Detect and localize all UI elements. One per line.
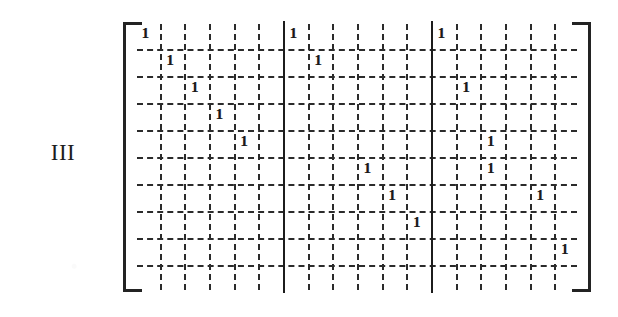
grid-vline	[480, 24, 482, 290]
grid-vline	[554, 24, 556, 290]
matrix-entry-r6-c10: 1	[364, 160, 372, 175]
grid-vline	[234, 24, 236, 290]
matrix-entry-r2-c2: 1	[166, 52, 174, 67]
matrix-entry-r2-c8: 1	[314, 52, 322, 67]
grid-vline	[505, 24, 507, 290]
grid-vline	[209, 24, 211, 290]
matrix-entry-r7-c17: 1	[536, 187, 544, 202]
matrix-figure: 1111111111111111	[123, 22, 591, 292]
matrix-entry-r3-c14: 1	[462, 79, 470, 94]
matrix-entry-r8-c12: 1	[413, 214, 421, 229]
grid-vline	[382, 24, 384, 290]
matrix-entry-r5-c5: 1	[240, 133, 248, 148]
matrix-right-bracket	[572, 22, 591, 292]
grid-vline	[332, 24, 334, 290]
block-separator-line	[431, 21, 433, 293]
grid-vline	[456, 24, 458, 290]
matrix-entry-r6-c15: 1	[487, 160, 495, 175]
block-separator-line	[283, 21, 285, 293]
grid-vline	[308, 24, 310, 290]
matrix-entry-r1-c7: 1	[290, 25, 298, 40]
grid-vline	[357, 24, 359, 290]
grid-vline	[184, 24, 186, 290]
figure-label: III	[18, 140, 108, 166]
grid-vline	[406, 24, 408, 290]
matrix-grid-area: 1111111111111111	[135, 22, 579, 292]
matrix-entry-r4-c4: 1	[216, 106, 224, 121]
matrix-entry-r3-c3: 1	[191, 79, 199, 94]
matrix-entry-r5-c15: 1	[487, 133, 495, 148]
matrix-entry-r1-c1: 1	[142, 25, 150, 40]
grid-vline	[160, 24, 162, 290]
matrix-entry-r1-c13: 1	[438, 25, 446, 40]
grid-vline	[258, 24, 260, 290]
grid-vline	[530, 24, 532, 290]
matrix-entry-r7-c11: 1	[388, 187, 396, 202]
matrix-entry-r9-c18: 1	[561, 241, 569, 256]
